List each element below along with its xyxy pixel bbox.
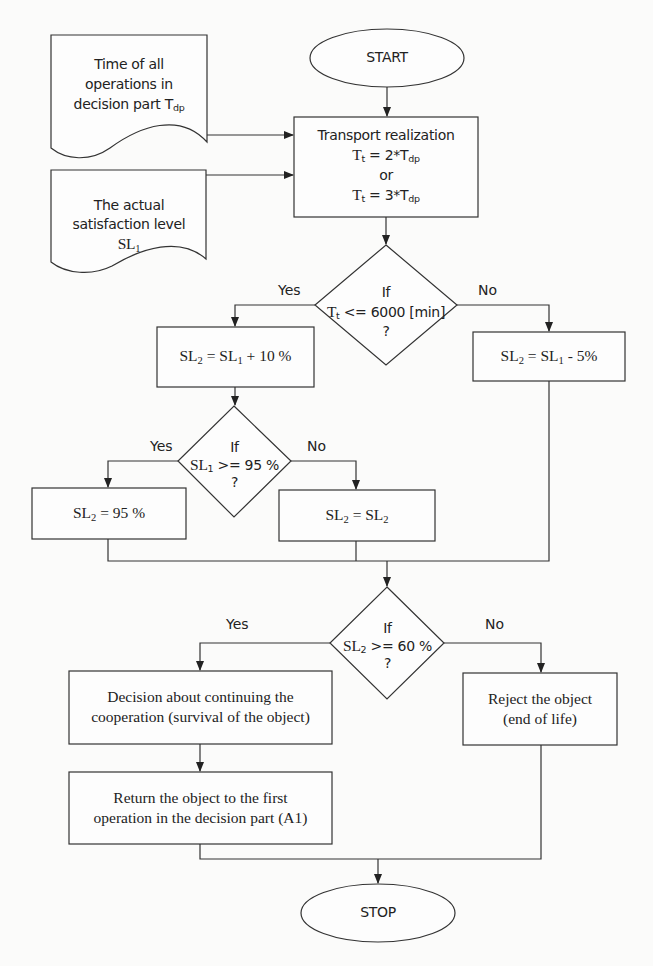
box-same-label: SL2 = SL2 [279, 506, 435, 525]
decision2-label: If SL1 >= 95 % ? [174, 439, 295, 491]
start-label: START [310, 49, 464, 66]
box-decrease-label: SL2 = SL1 - 5% [473, 347, 625, 366]
decision3-label: If SL2 >= 60 % ? [327, 620, 448, 672]
input-sl1-label: The actual satisfaction level SL1 [51, 196, 207, 253]
decision1-label: If Tt <= 6000 [min] ? [310, 283, 462, 341]
box-reject-label: Reject the object (end of life) [463, 689, 617, 729]
transport-label: Transport realization Tt = 2*Tdp or Tt =… [294, 125, 478, 205]
decision2-yes-label: Yes [150, 438, 173, 454]
decision3-yes-label: Yes [226, 616, 249, 632]
input-tdp-label: Time of all operations in decision part … [51, 54, 207, 114]
decision1-yes-label: Yes [278, 282, 301, 298]
box-continue-label: Decision about continuing the cooperatio… [69, 687, 332, 727]
decision1-no-label: No [478, 282, 497, 298]
decision2-no-label: No [307, 438, 326, 454]
stop-label: STOP [301, 904, 455, 921]
box-cap-label: SL2 = 95 % [32, 504, 186, 523]
box-increase-label: SL2 = SL1 + 10 % [157, 347, 314, 366]
decision3-no-label: No [485, 616, 504, 632]
box-return-label: Return the object to the first operation… [69, 788, 332, 828]
